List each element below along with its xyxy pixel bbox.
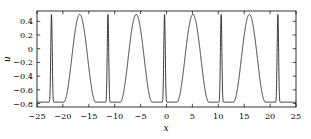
y-tick-label: −0.4	[13, 71, 33, 81]
y-tick-label: −0.8	[13, 99, 33, 109]
x-axis-label: x	[163, 123, 168, 133]
y-tick-marks	[37, 21, 296, 103]
figure-container: −25−20−15−10−50510152025 0.40.20−0.2−0.4…	[0, 0, 311, 139]
y-tick-label: 0.4	[20, 16, 33, 26]
x-tick-label: −25	[28, 111, 45, 121]
data-series-group	[37, 14, 296, 102]
x-tick-label: 0	[164, 111, 169, 121]
x-tick-label: 20	[265, 111, 275, 121]
y-tick-label: 0	[28, 44, 33, 54]
y-axis-label: u	[2, 56, 12, 62]
wave-curve	[37, 14, 296, 102]
chart-canvas: −25−20−15−10−50510152025 0.40.20−0.2−0.4…	[0, 0, 311, 139]
y-tick-label: 0.2	[20, 30, 33, 40]
y-tick-label: −0.6	[13, 85, 33, 95]
x-tick-label: −5	[135, 111, 147, 121]
x-tick-label: 5	[190, 111, 195, 121]
x-tick-label: 10	[213, 111, 223, 121]
x-tick-label: −15	[80, 111, 97, 121]
x-tick-label: −10	[106, 111, 123, 121]
y-tick-label: −0.2	[13, 57, 33, 67]
y-tick-labels: 0.40.20−0.2−0.4−0.6−0.8	[13, 16, 33, 108]
x-tick-label: 25	[291, 111, 301, 121]
x-tick-labels: −25−20−15−10−50510152025	[28, 111, 301, 121]
x-tick-label: 15	[239, 111, 249, 121]
x-tick-label: −20	[54, 111, 71, 121]
